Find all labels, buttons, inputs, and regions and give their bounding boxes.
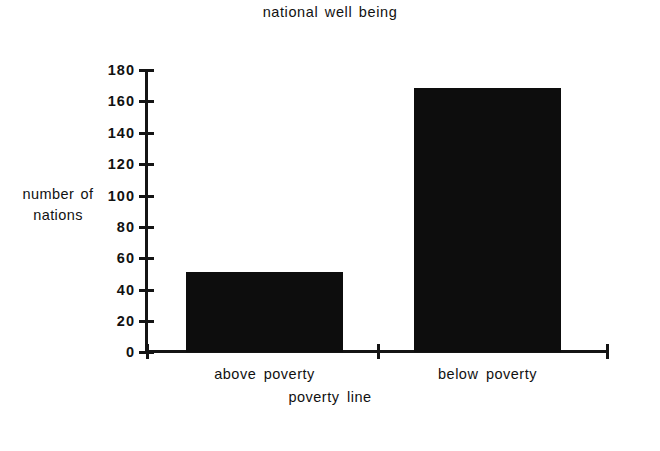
y-tick-140 bbox=[139, 132, 154, 135]
y-axis-title-line-2: nations bbox=[6, 205, 110, 226]
x-tick-middle bbox=[377, 344, 380, 359]
y-tick-label-20: 20 bbox=[89, 313, 135, 329]
y-tick-160 bbox=[139, 100, 154, 103]
x-tick-end bbox=[606, 344, 609, 359]
y-tick-label-120: 120 bbox=[89, 156, 135, 172]
y-tick-label-180: 180 bbox=[89, 62, 135, 78]
y-tick-40 bbox=[139, 289, 154, 292]
y-tick-label-60: 60 bbox=[89, 250, 135, 266]
y-tick-label-40: 40 bbox=[89, 282, 135, 298]
y-tick-180 bbox=[139, 69, 154, 72]
bar-chart: national well being 180 160 140 120 100 … bbox=[0, 0, 660, 451]
y-tick-60 bbox=[139, 257, 154, 260]
x-axis-title: poverty line bbox=[0, 389, 660, 405]
x-category-label-below-poverty: below poverty bbox=[414, 366, 561, 382]
y-tick-label-140: 140 bbox=[89, 125, 135, 141]
plot-area: 180 160 140 120 100 80 60 40 20 0 above … bbox=[0, 0, 660, 451]
bar-above-poverty bbox=[186, 272, 343, 352]
bar-below-poverty bbox=[414, 88, 561, 352]
y-axis-line bbox=[145, 70, 148, 353]
y-axis-title: number of nations bbox=[6, 184, 110, 226]
y-tick-20 bbox=[139, 320, 154, 323]
y-tick-80 bbox=[139, 226, 154, 229]
y-axis-title-line-1: number of bbox=[23, 186, 94, 202]
y-tick-100 bbox=[139, 195, 154, 198]
y-tick-120 bbox=[139, 163, 154, 166]
x-tick-start bbox=[146, 344, 149, 359]
y-tick-label-0: 0 bbox=[89, 344, 135, 360]
y-tick-label-160: 160 bbox=[89, 93, 135, 109]
x-category-label-above-poverty: above poverty bbox=[186, 366, 343, 382]
